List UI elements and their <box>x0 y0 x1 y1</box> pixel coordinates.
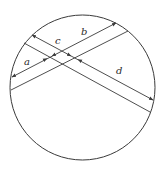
label-c: c <box>55 35 61 46</box>
dimension-arrow-c <box>32 35 71 56</box>
circle-chord-diagram: a b c d <box>0 0 164 169</box>
label-d: d <box>116 65 122 76</box>
chord-descending-lower <box>24 43 150 112</box>
label-a: a <box>24 56 30 67</box>
label-b: b <box>81 26 87 37</box>
